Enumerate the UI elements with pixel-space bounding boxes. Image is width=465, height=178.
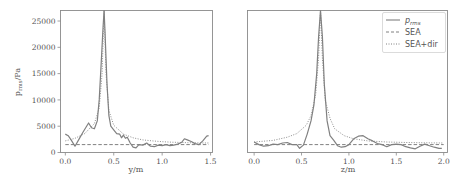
left-plot-series bbox=[65, 11, 208, 148]
series-p-rms bbox=[65, 11, 208, 148]
left-y-ticks: 0500010000150002000025000 bbox=[32, 17, 61, 157]
x-tick-label: 1.5 bbox=[390, 157, 402, 166]
x-tick-label: 0.0 bbox=[248, 157, 260, 166]
y-tick-label: 10000 bbox=[32, 96, 56, 105]
x-tick-label: 1.5 bbox=[205, 157, 217, 166]
x-tick-label: 0.5 bbox=[108, 157, 120, 166]
figure: 0.00.51.01.5 0500010000150002000025000 y… bbox=[0, 0, 465, 178]
y-tick-label: 25000 bbox=[32, 17, 56, 26]
right-x-ticks: 0.00.51.01.52.0 bbox=[248, 153, 450, 166]
legend: prms SEA SEA+dir bbox=[383, 13, 446, 53]
svg-text:SEA: SEA bbox=[405, 28, 421, 37]
x-tick-label: 1.0 bbox=[156, 157, 168, 166]
x-tick-label: 0.0 bbox=[59, 157, 71, 166]
series-sea-dir bbox=[65, 11, 208, 144]
left-plot: 0.00.51.01.5 0500010000150002000025000 y… bbox=[13, 11, 217, 175]
right-x-axis-label: z/m bbox=[341, 165, 356, 174]
y-tick-label: 20000 bbox=[32, 43, 56, 52]
right-plot: 0.00.51.01.52.0 z/m prms SEA SEA+dir bbox=[248, 11, 450, 175]
left-x-axis-label: y/m bbox=[128, 165, 144, 174]
y-tick-label: 5000 bbox=[36, 122, 55, 131]
left-y-axis-label: prms/Pa bbox=[13, 68, 23, 97]
left-x-ticks: 0.00.51.01.5 bbox=[59, 153, 216, 166]
y-tick-label: 15000 bbox=[32, 69, 56, 78]
y-tick-label: 0 bbox=[51, 148, 56, 157]
svg-text:SEA+dir: SEA+dir bbox=[405, 40, 439, 49]
x-tick-label: 0.5 bbox=[296, 157, 308, 166]
x-tick-label: 2.0 bbox=[438, 157, 450, 166]
